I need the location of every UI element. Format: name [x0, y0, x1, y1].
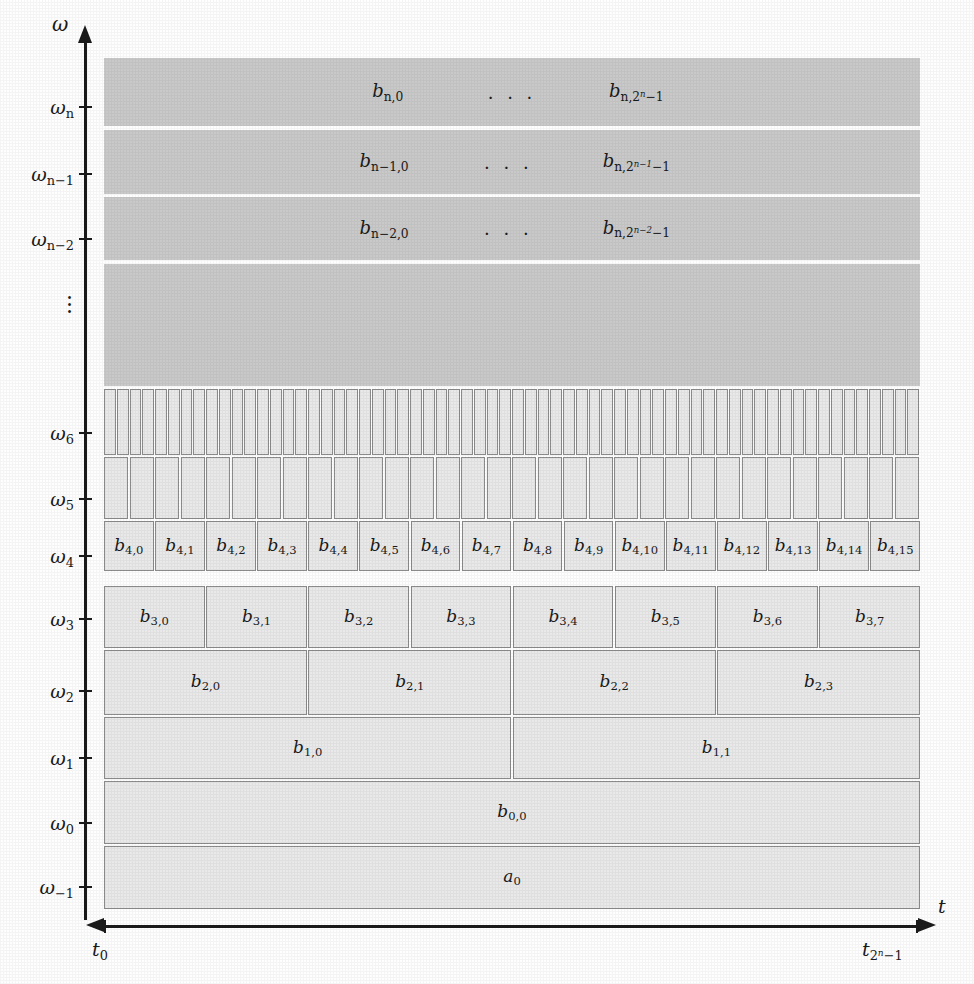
tile-label: b4,11 [673, 535, 710, 557]
tile-omega-6-row-37 [576, 389, 588, 455]
y-label-omega-4: ω4 [0, 545, 74, 570]
y-tick-omega-minus-1 [79, 886, 92, 888]
tile-omega-6-row-51 [754, 389, 766, 455]
tile-omega-3-row-5: b3,5 [615, 586, 716, 648]
tile-label: b3,2 [344, 606, 373, 628]
tile-omega-minus-1-row-0: a0 [104, 846, 920, 909]
tile-omega-6-row-7 [193, 389, 205, 455]
y-tick-omega-5 [79, 498, 92, 500]
tile-omega-6-row-19 [346, 389, 358, 455]
y-label-omega-1: ω1 [0, 747, 74, 772]
omega-1-row: b1,0b1,1 [104, 717, 920, 779]
tile-omega-3-row-0: b3,0 [104, 586, 205, 648]
tile-omega-5-row-27 [793, 457, 817, 519]
tile-omega-5-row-22 [665, 457, 689, 519]
dark-band-filler [104, 264, 920, 386]
figure-canvas: bn,0 . . . bn,2n−1 bn−1,0 . . . bn,2n−1−… [0, 0, 974, 984]
y-tick-omega-2 [79, 690, 92, 692]
time-axis-label: t [938, 895, 946, 917]
tile-omega-6-row-24 [410, 389, 422, 455]
tile-omega-6-row-55 [805, 389, 817, 455]
tile-omega-5-row-31 [895, 457, 919, 519]
tile-omega-5-row-2 [155, 457, 179, 519]
tile-omega-6-row-62 [895, 389, 907, 455]
tile-omega-6-row-5 [168, 389, 180, 455]
tile-label: b4,4 [319, 535, 348, 557]
tile-omega-3-row-7: b3,7 [819, 586, 920, 648]
tile-omega-6-row-17 [321, 389, 333, 455]
tile-label: b3,5 [651, 606, 680, 628]
tile-omega-6-row-41 [627, 389, 639, 455]
tile-omega-2-row-1: b2,1 [308, 650, 511, 715]
tile-omega-5-row-24 [716, 457, 740, 519]
y-label-omega-2: ω2 [0, 680, 74, 705]
tile-omega-6-row-26 [436, 389, 448, 455]
tile-omega-6-row-39 [601, 389, 613, 455]
tile-omega-4-row-7: b4,7 [462, 521, 512, 571]
dark-band-omega-n-2 [104, 197, 920, 260]
tile-omega-6-row-10 [232, 389, 244, 455]
tile-omega-6-row-2 [130, 389, 142, 455]
tile-label: b3,6 [753, 606, 782, 628]
y-tick-omega-n-2 [79, 238, 92, 240]
tile-omega-4-row-1: b4,1 [155, 521, 205, 571]
tile-label: b4,0 [114, 535, 143, 557]
tile-omega-6-row-46 [691, 389, 703, 455]
tile-omega-4-row-11: b4,11 [666, 521, 716, 571]
y-label-omega-0: ω0 [0, 812, 74, 837]
time-tick-start [104, 920, 106, 933]
tile-omega-6-row-35 [550, 389, 562, 455]
tile-omega-6-row-43 [652, 389, 664, 455]
tile-omega-4-row-8: b4,8 [513, 521, 563, 571]
tile-omega-5-row-17 [538, 457, 562, 519]
tile-omega-6-row-27 [448, 389, 460, 455]
omega-0-row: b0,0 [104, 781, 920, 844]
tile-omega-5-row-29 [844, 457, 868, 519]
tile-omega-6-row-31 [499, 389, 511, 455]
tile-omega-6-row-9 [219, 389, 231, 455]
tile-label: b4,9 [574, 535, 603, 557]
tile-omega-6-row-34 [538, 389, 550, 455]
tile-omega-4-row-12: b4,12 [717, 521, 767, 571]
omega-3-row: b3,0b3,1b3,2b3,3b3,4b3,5b3,6b3,7 [104, 586, 920, 648]
tile-omega-6-row-20 [359, 389, 371, 455]
tile-omega-6-row-50 [742, 389, 754, 455]
tile-omega-6-row-44 [665, 389, 677, 455]
tile-label: b4,1 [165, 535, 194, 557]
tile-omega-4-row-6: b4,6 [411, 521, 461, 571]
tile-omega-3-row-2: b3,2 [308, 586, 409, 648]
y-tick-omega-1 [79, 757, 92, 759]
tile-omega-6-row-8 [206, 389, 218, 455]
tile-label: b2,1 [395, 671, 424, 693]
tile-omega-4-row-2: b4,2 [206, 521, 256, 571]
tile-omega-5-row-20 [614, 457, 638, 519]
time-tick-end [916, 920, 918, 933]
dark-band-omega-n-1 [104, 130, 920, 194]
tile-label: b3,1 [242, 606, 271, 628]
tile-omega-5-row-18 [563, 457, 587, 519]
omega-6-row [104, 389, 920, 455]
tile-omega-5-row-21 [640, 457, 664, 519]
tile-omega-6-row-14 [283, 389, 295, 455]
tile-label: b3,3 [446, 606, 475, 628]
tile-label: b4,13 [775, 535, 812, 557]
y-label-omega-5: ω5 [0, 488, 74, 513]
tile-omega-5-row-16 [512, 457, 536, 519]
tile-label: b0,0 [497, 801, 526, 823]
tile-omega-6-row-6 [181, 389, 193, 455]
tile-omega-6-row-52 [767, 389, 779, 455]
tile-omega-4-row-5: b4,5 [359, 521, 409, 571]
tile-omega-5-row-0 [104, 457, 128, 519]
tile-omega-6-row-60 [869, 389, 881, 455]
frequency-axis-arrow-icon [78, 25, 92, 43]
tile-omega-6-row-63 [907, 389, 919, 455]
tile-omega-6-row-59 [856, 389, 868, 455]
tile-label: b2,0 [191, 671, 220, 693]
tile-label: b4,5 [370, 535, 399, 557]
tile-omega-6-row-45 [678, 389, 690, 455]
tile-omega-6-row-28 [461, 389, 473, 455]
tile-omega-1-row-1: b1,1 [513, 717, 920, 779]
y-label-omega-n-2: ωn−2 [0, 228, 74, 253]
omega-minus-1-row: a0 [104, 846, 920, 909]
tile-omega-4-row-4: b4,4 [308, 521, 358, 571]
